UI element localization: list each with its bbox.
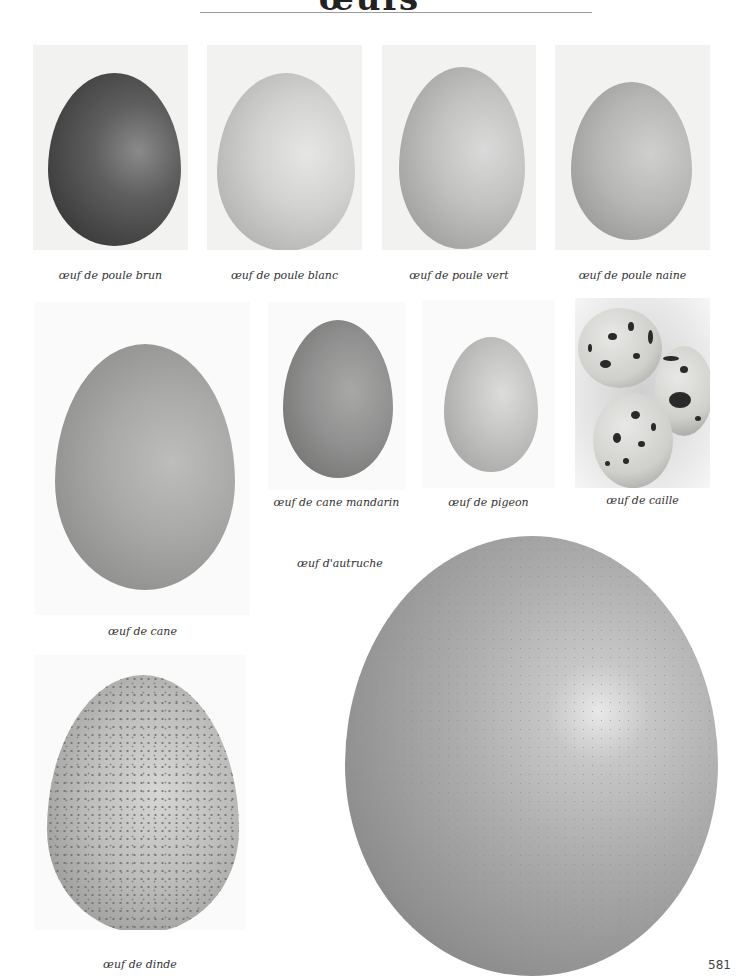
duck-egg <box>55 344 235 590</box>
ostrich-egg <box>345 536 718 976</box>
photo-bantam-hen-egg <box>555 45 710 250</box>
caption-bantam-hen: œuf de poule naine <box>555 269 710 282</box>
mandarin-duck-egg <box>283 320 393 478</box>
turkey-egg-speckles <box>47 675 239 930</box>
bantam-hen-egg <box>571 82 692 240</box>
photo-pigeon-egg <box>422 300 555 488</box>
caption-quail: œuf de caille <box>575 494 710 507</box>
header-rule <box>200 12 592 13</box>
photo-brown-hen-egg <box>33 45 188 250</box>
caption-green-hen: œuf de poule vert <box>382 269 536 282</box>
white-hen-egg <box>217 73 355 250</box>
pigeon-egg <box>444 337 538 472</box>
ostrich-egg-pores <box>345 536 718 976</box>
photo-mandarin-duck-egg <box>268 302 405 490</box>
photo-quail-eggs <box>575 298 710 488</box>
photo-duck-egg <box>35 302 250 615</box>
caption-white-hen: œuf de poule blanc <box>207 269 362 282</box>
caption-turkey: œuf de dinde <box>35 958 245 971</box>
turkey-egg <box>47 675 239 930</box>
caption-ostrich: œuf d'autruche <box>280 557 400 570</box>
green-hen-egg <box>399 67 525 249</box>
brown-hen-egg <box>48 73 181 246</box>
quail-egg-1 <box>578 308 662 388</box>
caption-pigeon: œuf de pigeon <box>422 496 555 509</box>
photo-green-hen-egg <box>382 45 536 250</box>
page-number: 581 <box>708 958 731 972</box>
photo-turkey-egg <box>35 655 245 930</box>
caption-mandarin-duck: œuf de cane mandarin <box>268 496 405 509</box>
photo-white-hen-egg <box>207 45 362 250</box>
quail-egg-3 <box>593 393 673 488</box>
caption-brown-hen: œuf de poule brun <box>33 269 188 282</box>
caption-duck: œuf de cane <box>35 625 250 638</box>
page-title: œufs <box>0 0 739 18</box>
